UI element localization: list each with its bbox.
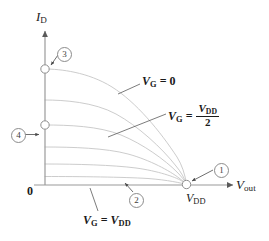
x-tick-label-vdd: VDD	[186, 192, 206, 206]
vdd-label-sub: DD	[193, 197, 205, 206]
marker-point-1-vdd	[182, 180, 190, 188]
leader-vg-zero	[118, 84, 140, 94]
curve-5	[45, 164, 187, 185]
vg-vdd-lhs-sub: G	[91, 219, 98, 228]
vg-vdd-rhs-sub: DD	[119, 219, 131, 228]
vg-half-num-main: V	[198, 102, 205, 114]
vg-vdd-equals: =	[98, 213, 111, 227]
annotation-vg-vdd: VG = VDD	[83, 214, 131, 228]
arrow-callout-1	[192, 170, 213, 181]
leader-lines	[90, 84, 166, 211]
y-axis-label-sub: D	[40, 15, 47, 25]
curve-2	[45, 100, 187, 185]
arrow-callout-2	[125, 183, 133, 192]
vg-half-numerator: VDD	[196, 103, 219, 117]
annotation-vg-zero: VG = 0	[142, 75, 175, 89]
x-axis-label-sub: out	[244, 183, 256, 193]
vg-zero-lhs-main: V	[142, 74, 150, 88]
curve-vg-vdd	[45, 177, 187, 185]
callout-badge-2: 2	[129, 193, 144, 208]
marker-point-4-mid	[41, 121, 49, 129]
vg-half-lhs-sub: G	[176, 115, 183, 124]
vg-half-equals: =	[183, 109, 196, 123]
vg-vdd-lhs-main: V	[83, 213, 91, 227]
vg-half-lhs-main: V	[168, 109, 176, 123]
vg-half-num-sub: DD	[206, 107, 217, 116]
vg-zero-rhs: 0	[169, 74, 175, 88]
vg-half-denominator: 2	[196, 117, 219, 128]
vg-zero-lhs-sub: G	[150, 80, 157, 89]
mosfet-id-vout-figure: ID Vout 0 VDD VG = 0 VG = VDD2 VG = VDD …	[0, 0, 269, 241]
origin-label: 0	[27, 185, 33, 197]
leader-vg-vdd	[90, 188, 98, 211]
callout-badge-3: 3	[57, 47, 72, 62]
y-axis-label: ID	[36, 10, 47, 25]
callout-badge-4: 4	[11, 128, 26, 143]
leader-vg-half	[108, 114, 166, 137]
annotation-vg-half: VG = VDD2	[168, 103, 219, 128]
x-axis-label: Vout	[236, 178, 256, 193]
vg-zero-equals: =	[157, 74, 170, 88]
vg-half-fraction: VDD2	[196, 103, 219, 128]
x-axis-label-main: V	[236, 177, 244, 192]
callout-badge-1: 1	[214, 163, 229, 178]
vg-vdd-rhs-main: V	[110, 213, 118, 227]
marker-point-3-top	[41, 65, 49, 73]
